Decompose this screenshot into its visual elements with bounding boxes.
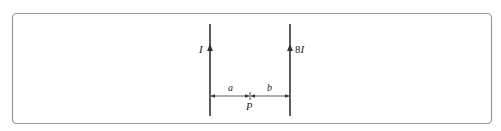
point-p-label: P [245, 101, 253, 112]
right-current-label: 8I [295, 43, 306, 55]
right-wire [287, 24, 293, 116]
left-current-label: I [198, 43, 204, 55]
distance-a-label: a [228, 82, 233, 93]
left-current-arrow-icon [207, 44, 213, 51]
distance-b-label: b [267, 82, 272, 93]
right-current-arrow-icon [287, 44, 293, 51]
left-wire [207, 24, 213, 116]
diagram-canvas: I 8I a P b [0, 0, 501, 131]
